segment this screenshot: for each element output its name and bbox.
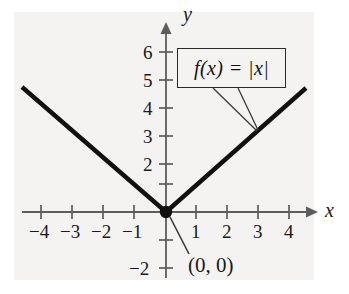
y-axis-group — [159, 22, 173, 278]
y-tick-label-plus6: 6 — [143, 43, 153, 62]
y-axis-arrowhead — [161, 22, 172, 34]
x-tick-label-plus1: 1 — [191, 222, 201, 241]
figure-container: f(x) = |x| y x −4 −3 −2 −1 1 2 3 4 6 5 4… — [0, 0, 349, 294]
x-axis-label: x — [325, 200, 334, 220]
absolute-value-curve — [22, 87, 306, 212]
x-tick-label-plus3: 3 — [253, 222, 263, 241]
function-curve-group — [22, 87, 306, 212]
x-axis-arrowhead — [306, 207, 318, 218]
y-tick-label-plus4: 4 — [143, 99, 153, 118]
graph-svg — [0, 0, 349, 294]
y-axis-label: y — [183, 4, 192, 24]
function-callout-box: f(x) = |x| — [177, 48, 286, 88]
y-tick-label-minus2: −2 — [129, 259, 149, 278]
y-tick-label-plus3: 3 — [143, 127, 153, 146]
x-tick-label-plus2: 2 — [222, 222, 232, 241]
function-formula-label: f(x) = |x| — [178, 49, 285, 87]
x-tick-label-plus4: 4 — [284, 222, 294, 241]
callout-leader-lines — [213, 88, 258, 131]
callout-leader-line-right — [238, 88, 258, 130]
x-tick-label-minus2: −2 — [91, 222, 111, 241]
origin-point-marker — [160, 206, 172, 218]
x-tick-label-minus3: −3 — [60, 222, 80, 241]
x-tick-label-minus4: −4 — [29, 222, 49, 241]
callout-leader-line-left — [213, 88, 257, 131]
origin-point-label: (0, 0) — [188, 255, 234, 276]
origin-label-leader-line — [170, 217, 189, 254]
y-tick-label-plus2: 2 — [143, 155, 153, 174]
x-tick-label-minus1: −1 — [122, 222, 142, 241]
y-tick-label-plus5: 5 — [143, 71, 153, 90]
